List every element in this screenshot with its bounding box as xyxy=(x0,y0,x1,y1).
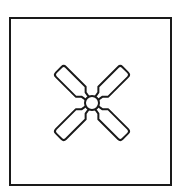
fan-hub-icon xyxy=(85,96,99,110)
ceiling-fan-icon xyxy=(0,0,183,195)
